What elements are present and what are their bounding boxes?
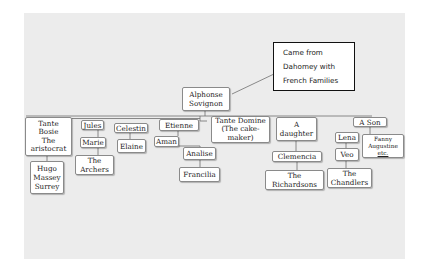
node-text: Archers <box>80 165 109 174</box>
node-etienne[interactable]: Etienne <box>159 119 199 131</box>
node-text: Etienne <box>165 121 193 130</box>
node-text: Massey <box>33 173 60 182</box>
node-elaine[interactable]: Elaine <box>117 139 146 153</box>
node-alphonse-sovignon[interactable]: Alphonse Sovignon <box>182 87 230 111</box>
node-text: Chandlers <box>331 178 368 187</box>
node-text: etc. <box>378 150 389 157</box>
node-a-daughter[interactable]: A daughter <box>276 117 317 141</box>
node-aman[interactable]: Aman <box>154 136 179 147</box>
node-text: Augustine <box>368 143 398 150</box>
node-clemencia[interactable]: Clemencia <box>272 151 322 162</box>
node-text: A Son <box>359 118 380 127</box>
node-text: Richardsons <box>272 180 317 189</box>
node-text: Francilia <box>183 170 216 179</box>
node-text: Celestin <box>116 124 146 133</box>
node-the-chandlers[interactable]: The Chandlers <box>327 168 372 188</box>
node-text: Surrey <box>35 182 60 191</box>
node-text: Analise <box>186 149 213 158</box>
note-line-2: Dahomey with <box>283 60 354 74</box>
node-lena[interactable]: Lena <box>335 132 359 143</box>
root-line-2: Sovignon <box>189 99 223 108</box>
node-text: Aman <box>156 137 177 146</box>
node-the-archers[interactable]: The Archers <box>75 155 114 175</box>
origin-note: Came from Dahomey with French Families <box>273 42 355 91</box>
node-text: Marie <box>82 138 104 147</box>
node-jules[interactable]: Jules <box>81 120 104 130</box>
node-text: maker) <box>228 134 254 142</box>
node-marie[interactable]: Marie <box>80 137 106 148</box>
node-text: daughter <box>280 129 313 138</box>
node-analise[interactable]: Analise <box>183 147 216 160</box>
node-text: Lena <box>338 133 356 142</box>
node-fanny-augustine[interactable]: Fanny Augustine etc. <box>362 134 404 158</box>
node-francilia[interactable]: Francilia <box>179 167 220 182</box>
node-text: Hugo <box>37 164 57 173</box>
node-text: The <box>288 171 302 180</box>
node-a-son[interactable]: A Son <box>353 117 387 127</box>
node-tante-bosie[interactable]: Tante Bosie The aristocrat <box>25 117 72 156</box>
node-veo[interactable]: Veo <box>335 148 359 161</box>
note-line-3: French Families <box>283 74 354 88</box>
root-line-1: Alphonse <box>189 90 223 99</box>
node-text: Elaine <box>120 142 143 151</box>
node-tante-domine[interactable]: Tante Domine (The cake- maker) <box>211 116 270 143</box>
node-text: Clemencia <box>278 152 316 161</box>
node-text: The <box>88 156 102 165</box>
node-text: Fanny <box>374 136 392 143</box>
node-hugo-massey-surrey[interactable]: Hugo Massey Surrey <box>30 161 64 194</box>
node-text: Veo <box>340 150 353 159</box>
node-text: The <box>343 169 357 178</box>
note-line-1: Came from <box>283 46 354 60</box>
node-text: A <box>294 120 299 129</box>
node-celestin[interactable]: Celestin <box>114 123 148 133</box>
node-text: aristocrat <box>31 145 67 153</box>
node-text: Jules <box>84 121 102 130</box>
node-the-richardsons[interactable]: The Richardsons <box>265 170 324 190</box>
